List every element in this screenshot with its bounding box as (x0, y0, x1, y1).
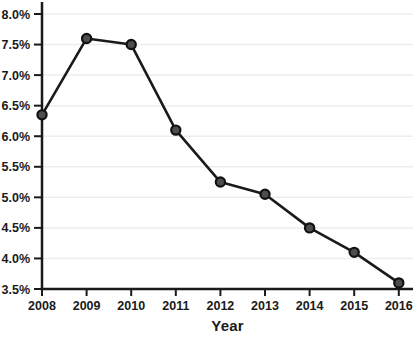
x-tick-label: 2010 (117, 299, 145, 313)
x-tick-label: 2008 (28, 299, 56, 313)
x-tick-label: 2011 (162, 299, 189, 313)
y-tick-label: 5.5% (2, 160, 31, 174)
x-tick-label: 2015 (340, 299, 368, 313)
y-tick-label: 5.0% (2, 191, 31, 205)
data-point (82, 34, 91, 43)
x-tick-label: 2014 (296, 299, 324, 313)
data-point (305, 223, 314, 232)
data-point (350, 248, 359, 257)
data-point (394, 278, 403, 287)
data-point (171, 126, 180, 135)
data-point (260, 190, 269, 199)
x-tick-label: 2012 (206, 299, 234, 313)
x-tick-label: 2016 (385, 299, 413, 313)
plot-canvas: 3.5%4.0%4.5%5.0%5.5%6.0%6.5%7.0%7.5%8.0%… (0, 0, 413, 341)
y-tick-label: 4.0% (2, 252, 31, 266)
line-chart: 3.5%4.0%4.5%5.0%5.5%6.0%6.5%7.0%7.5%8.0%… (0, 0, 413, 341)
y-tick-label: 4.5% (2, 221, 31, 235)
y-tick-label: 7.0% (2, 69, 31, 83)
y-tick-label: 7.5% (2, 38, 31, 52)
data-point (37, 110, 46, 119)
data-point (216, 177, 225, 186)
data-point (127, 40, 136, 49)
y-tick-label: 6.0% (2, 130, 31, 144)
x-tick-label: 2009 (73, 299, 101, 313)
y-tick-label: 8.0% (2, 8, 31, 22)
y-tick-label: 3.5% (2, 283, 31, 297)
y-tick-label: 6.5% (2, 99, 31, 113)
x-tick-label: 2013 (251, 299, 279, 313)
x-axis-title: Year (42, 317, 413, 334)
